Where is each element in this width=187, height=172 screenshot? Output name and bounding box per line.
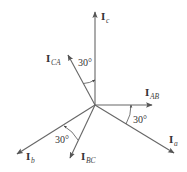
svg-text:I: I — [145, 86, 149, 98]
svg-text:I: I — [169, 133, 173, 145]
svg-text:I: I — [46, 52, 50, 64]
label-Ic: I c — [101, 10, 110, 25]
label-Ia: I a — [169, 133, 178, 148]
svg-text:AB: AB — [149, 92, 160, 101]
svg-text:I: I — [101, 10, 105, 22]
angle-label-right: 30° — [133, 114, 147, 125]
svg-text:b: b — [31, 156, 35, 165]
svg-text:CA: CA — [51, 58, 61, 67]
label-ICA: I CA — [46, 52, 61, 67]
angle-label-top: 30° — [78, 57, 92, 68]
svg-text:a: a — [174, 139, 178, 148]
label-IBC: I BC — [81, 150, 97, 165]
svg-text:c: c — [106, 16, 110, 25]
svg-text:I: I — [81, 150, 85, 162]
phasor-Ia-line — [95, 105, 174, 153]
angle-arc-Ia-IAB — [126, 105, 131, 124]
label-IAB: I AB — [145, 86, 160, 101]
svg-text:I: I — [26, 150, 30, 162]
label-Ib: I b — [26, 150, 35, 165]
phasor-diagram: I c I CA I AB I a I b I BC 30° 30° 30° — [0, 0, 187, 172]
angle-arc-ICA-Ic — [84, 80, 96, 84]
angle-label-bottom: 30° — [55, 134, 69, 145]
svg-text:BC: BC — [86, 156, 97, 165]
